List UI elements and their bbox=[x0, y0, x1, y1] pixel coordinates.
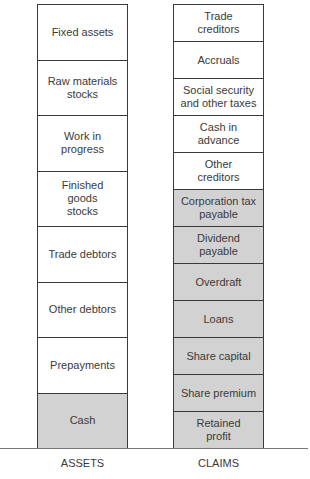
claim-box-overdraft: Overdraft bbox=[174, 264, 263, 301]
claim-box-retained-profit: Retained profit bbox=[174, 412, 263, 448]
claim-box-trade-creditors: Trade creditors bbox=[174, 5, 263, 42]
claims-label: CLAIMS bbox=[173, 457, 264, 469]
claim-box-cash-in-advance: Cash in advance bbox=[174, 116, 263, 153]
claim-box-other-creditors: Other creditors bbox=[174, 153, 263, 190]
claim-box-social-security-taxes: Social security and other taxes bbox=[174, 79, 263, 116]
asset-box-work-in-progress: Work in progress bbox=[38, 116, 127, 172]
claim-box-loans: Loans bbox=[174, 301, 263, 338]
baseline-divider bbox=[0, 448, 308, 449]
asset-box-raw-materials-stocks: Raw materials stocks bbox=[38, 61, 127, 117]
asset-box-other-debtors: Other debtors bbox=[38, 283, 127, 339]
assets-column: Fixed assets Raw materials stocks Work i… bbox=[37, 4, 128, 449]
asset-box-trade-debtors: Trade debtors bbox=[38, 227, 127, 283]
claim-box-corporation-tax-payable: Corporation tax payable bbox=[174, 190, 263, 227]
claim-box-accruals: Accruals bbox=[174, 42, 263, 79]
claim-box-share-capital: Share capital bbox=[174, 338, 263, 375]
asset-box-fixed-assets: Fixed assets bbox=[38, 5, 127, 61]
assets-label: ASSETS bbox=[37, 457, 128, 469]
claims-column: Trade creditors Accruals Social security… bbox=[173, 4, 264, 449]
asset-box-prepayments: Prepayments bbox=[38, 338, 127, 394]
claim-box-dividend-payable: Dividend payable bbox=[174, 227, 263, 264]
asset-box-finished-goods-stocks: Finished goods stocks bbox=[38, 172, 127, 228]
asset-box-cash: Cash bbox=[38, 394, 127, 449]
claim-box-share-premium: Share premium bbox=[174, 375, 263, 412]
